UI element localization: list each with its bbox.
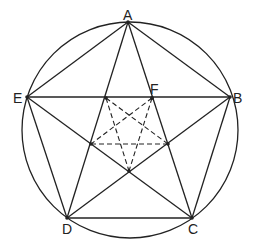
segment-ce	[27, 97, 192, 218]
point-dot	[65, 216, 69, 220]
point-dot	[190, 216, 194, 220]
point-dot	[228, 95, 232, 99]
label-a: A	[123, 7, 133, 23]
segment-bd	[67, 97, 230, 218]
pentagram-diagram: A B C D E F	[0, 0, 256, 246]
dashed-segment	[91, 98, 152, 144]
point-dot	[89, 142, 93, 146]
label-f: F	[150, 81, 159, 97]
segment-ad	[67, 22, 128, 218]
dashed-segment	[129, 98, 152, 171]
segment-ac	[128, 22, 192, 218]
label-e: E	[13, 90, 22, 106]
point-dot	[104, 96, 108, 100]
dashed-segment	[106, 98, 129, 171]
solid-lines	[27, 22, 230, 218]
segment-bc	[192, 97, 230, 218]
circumscribed-circle	[22, 22, 238, 238]
label-d: D	[62, 221, 72, 237]
dashed-segment	[106, 98, 168, 144]
point-dot	[127, 169, 131, 173]
label-c: C	[188, 221, 198, 237]
point-dot	[166, 142, 170, 146]
label-b: B	[233, 90, 242, 106]
segment-ea	[27, 22, 128, 97]
point-dot	[25, 95, 29, 99]
